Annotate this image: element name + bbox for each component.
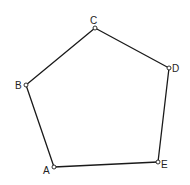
vertex-d xyxy=(167,66,171,70)
edge-b-c xyxy=(26,28,95,85)
vertex-a xyxy=(52,165,56,169)
edge-c-d xyxy=(95,28,169,68)
vertex-label-e: E xyxy=(161,159,168,170)
pentagon-diagram: A B C D E xyxy=(0,0,190,185)
edge-e-a xyxy=(54,162,158,167)
edge-d-e xyxy=(158,68,169,162)
vertices xyxy=(24,26,171,169)
vertex-label-c: C xyxy=(90,15,97,26)
labels: A B C D E xyxy=(15,15,179,176)
edges xyxy=(26,28,169,167)
vertex-b xyxy=(24,83,28,87)
vertex-label-b: B xyxy=(15,80,22,91)
vertex-label-a: A xyxy=(43,165,50,176)
vertex-c xyxy=(93,26,97,30)
edge-a-b xyxy=(26,85,54,167)
vertex-e xyxy=(156,160,160,164)
vertex-label-d: D xyxy=(172,63,179,74)
